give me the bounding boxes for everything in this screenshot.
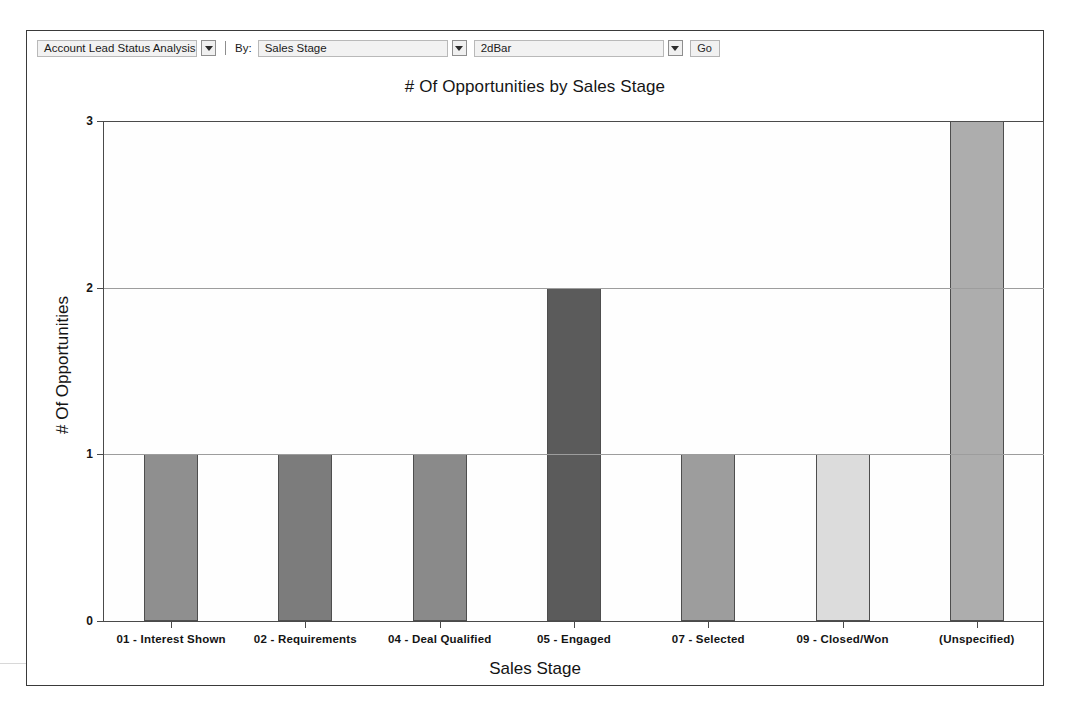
bar[interactable]	[681, 454, 735, 621]
x-axis-tick-label: 05 - Engaged	[537, 633, 611, 645]
y-axis-tick	[97, 621, 104, 622]
report-select[interactable]: Account Lead Status Analysis	[37, 40, 197, 57]
report-panel: Account Lead Status Analysis By: Sales S…	[26, 30, 1044, 686]
plot-area: 0123 01 - Interest Shown02 - Requirement…	[103, 121, 1044, 622]
x-axis-tick-label: 04 - Deal Qualified	[388, 633, 492, 645]
bar[interactable]	[144, 454, 198, 621]
bar-series	[104, 121, 1044, 621]
x-axis-tick-label: 01 - Interest Shown	[117, 633, 226, 645]
report-select-value: Account Lead Status Analysis	[38, 41, 196, 56]
x-axis-tick	[305, 621, 306, 628]
gridline	[104, 288, 1044, 289]
x-axis-title: Sales Stage	[27, 659, 1043, 679]
x-axis-tick	[440, 621, 441, 628]
y-axis-tick-label: 1	[86, 447, 93, 461]
x-axis-tick	[843, 621, 844, 628]
x-axis-tick-label: 02 - Requirements	[254, 633, 357, 645]
go-button[interactable]: Go	[690, 40, 720, 57]
x-axis-tick-label: 09 - Closed/Won	[796, 633, 888, 645]
y-axis-title: # Of Opportunities	[53, 296, 73, 434]
gridline	[104, 454, 1044, 455]
y-axis-tick	[97, 454, 104, 455]
x-axis-tick-label: (Unspecified)	[939, 633, 1014, 645]
bar[interactable]	[413, 454, 467, 621]
chart-area: # Of Opportunities by Sales Stage # Of O…	[27, 65, 1043, 687]
group-by-select-value: Sales Stage	[259, 41, 333, 56]
y-axis-tick-label: 0	[86, 614, 93, 628]
y-axis-tick-label: 3	[86, 114, 93, 128]
x-axis-tick-label: 07 - Selected	[672, 633, 745, 645]
y-axis-tick	[97, 121, 104, 122]
chart-type-select-value: 2dBar	[475, 41, 518, 56]
group-by-select[interactable]: Sales Stage	[258, 40, 448, 57]
x-axis-tick	[708, 621, 709, 628]
bar[interactable]	[278, 454, 332, 621]
toolbar-divider	[225, 41, 226, 55]
chart-title: # Of Opportunities by Sales Stage	[27, 77, 1043, 97]
x-axis-tick	[574, 621, 575, 628]
y-axis-tick	[97, 288, 104, 289]
x-axis-tick	[171, 621, 172, 628]
chart-type-select[interactable]: 2dBar	[474, 40, 664, 57]
screenshot-root: Account Lead Status Analysis By: Sales S…	[0, 0, 1070, 710]
report-toolbar: Account Lead Status Analysis By: Sales S…	[27, 31, 1043, 65]
chart-type-chevron-down-icon[interactable]	[668, 40, 683, 56]
y-axis-tick-label: 2	[86, 281, 93, 295]
report-select-chevron-down-icon[interactable]	[201, 40, 216, 56]
by-label: By:	[235, 42, 252, 54]
group-by-chevron-down-icon[interactable]	[452, 40, 467, 56]
bar[interactable]	[816, 454, 870, 621]
bar[interactable]	[950, 121, 1004, 621]
x-axis-tick	[977, 621, 978, 628]
scan-artifact	[0, 663, 26, 664]
